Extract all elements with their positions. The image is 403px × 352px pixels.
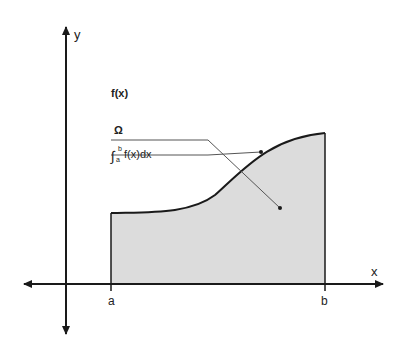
function-leader-dot xyxy=(259,150,263,154)
integral-expression: f(x)dx xyxy=(124,148,152,160)
integral-lower-limit: a xyxy=(116,156,120,163)
bound-a-label: a xyxy=(108,294,115,308)
function-label: f(x) xyxy=(111,87,128,99)
region-leader-dot xyxy=(278,206,282,210)
x-axis-label: x xyxy=(371,264,378,279)
integral-upper-limit: b xyxy=(118,145,122,152)
region-label: Ω xyxy=(114,124,123,136)
bound-b-label: b xyxy=(321,294,328,308)
integral-diagram: y x a b f(x) Ω ∫ b a f(x)dx xyxy=(0,0,403,352)
y-axis-label: y xyxy=(74,27,81,42)
